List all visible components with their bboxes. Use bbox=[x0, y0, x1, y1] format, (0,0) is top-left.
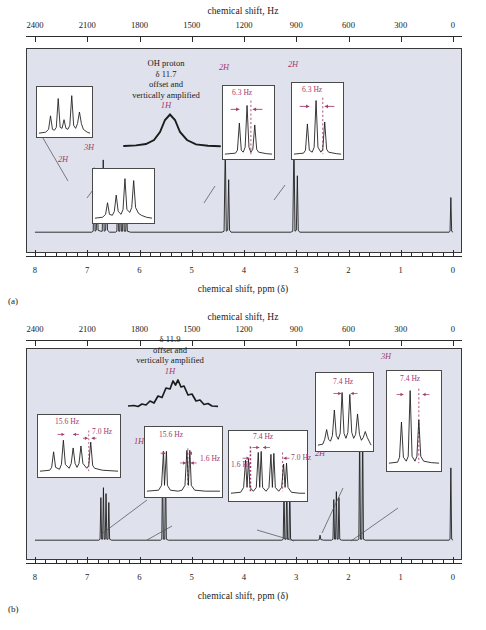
hz-tick bbox=[244, 340, 245, 346]
ppm-tick bbox=[286, 253, 287, 256]
ppm-tick bbox=[192, 557, 193, 563]
hz-tick-label: 2400 bbox=[26, 20, 43, 30]
ppm-tick bbox=[77, 560, 78, 563]
hz-tick-label: 900 bbox=[290, 324, 303, 334]
hz-tick bbox=[349, 36, 350, 42]
inset-multiplet-32ppm-b: 7.4 Hz 1.6 Hz 7.0 Hz bbox=[228, 430, 308, 502]
ppm-tick-label: 3 bbox=[294, 265, 298, 275]
ppm-tick bbox=[98, 560, 99, 563]
ppm-tick bbox=[244, 557, 245, 563]
j-label: 15.6 Hz bbox=[55, 418, 79, 426]
ppm-tick bbox=[202, 560, 203, 563]
ppm-tick bbox=[401, 557, 402, 563]
j-label: 6.3 Hz bbox=[302, 86, 322, 94]
j-label-text: 7.0 Hz bbox=[291, 453, 311, 462]
hz-tick-label: 600 bbox=[342, 324, 355, 334]
ppm-tick-label: 1 bbox=[399, 265, 403, 275]
hz-tick-label: 300 bbox=[394, 20, 407, 30]
ppm-tick bbox=[140, 250, 141, 256]
ppm-tick bbox=[380, 253, 381, 256]
ppm-tick bbox=[234, 253, 235, 256]
ppm-tick bbox=[317, 253, 318, 256]
inset-triplet-09ppm-b: 7.4 Hz bbox=[386, 370, 442, 472]
ppm-tick bbox=[56, 253, 57, 256]
inset-sextet-15ppm-b: 7.4 Hz bbox=[315, 372, 374, 452]
ppm-tick bbox=[129, 560, 130, 563]
ppm-tick bbox=[443, 560, 444, 563]
ppm-tick bbox=[171, 560, 172, 563]
hz-tick bbox=[453, 36, 454, 42]
hz-tick bbox=[87, 340, 88, 346]
ppm-tick-label: 8 bbox=[33, 572, 37, 582]
hz-tick-label: 900 bbox=[290, 20, 303, 30]
ppm-tick bbox=[422, 253, 423, 256]
ppm-tick bbox=[359, 253, 360, 256]
hz-tick-label: 2100 bbox=[79, 324, 96, 334]
ppm-tick bbox=[213, 560, 214, 563]
j-label: 7.0 Hz bbox=[291, 454, 311, 462]
inset-trace bbox=[93, 169, 154, 223]
hz-axis-b: 240021001800150012009006003000 bbox=[26, 324, 462, 350]
ppm-tick bbox=[77, 253, 78, 256]
panel-letter-a: (a) bbox=[8, 296, 18, 306]
hz-tick bbox=[192, 36, 193, 42]
ppm-axis-b: 876543210 bbox=[26, 563, 462, 589]
j-label: 1.6 Hz bbox=[200, 455, 220, 463]
hz-tick-label: 2100 bbox=[79, 20, 96, 30]
inset-triplet-4ppm-a: 6.3 Hz bbox=[222, 85, 275, 160]
ppm-tick bbox=[181, 253, 182, 256]
ppm-tick bbox=[45, 560, 46, 563]
ppm-tick bbox=[160, 560, 161, 563]
hz-tick-label: 0 bbox=[451, 324, 455, 334]
ppm-tick-label: 4 bbox=[242, 265, 246, 275]
ppm-tick bbox=[307, 560, 308, 563]
hz-tick bbox=[453, 340, 454, 346]
ppm-tick bbox=[411, 253, 412, 256]
ppm-tick-label: 3 bbox=[294, 572, 298, 582]
ppm-tick bbox=[275, 560, 276, 563]
ppm-tick bbox=[422, 560, 423, 563]
ppm-tick bbox=[275, 253, 276, 256]
ppm-tick bbox=[150, 560, 151, 563]
ppm-tick bbox=[181, 560, 182, 563]
ppm-tick bbox=[401, 250, 402, 256]
top-axis-title-a: chemical shift, Hz bbox=[0, 6, 486, 16]
hz-tick bbox=[140, 36, 141, 42]
j-label-text: 1.6 Hz bbox=[200, 454, 220, 463]
ppm-tick bbox=[234, 560, 235, 563]
j-label: 15.6 Hz bbox=[159, 431, 183, 439]
j-label: 7.0 Hz bbox=[92, 428, 112, 436]
ppm-tick-label: 7 bbox=[85, 572, 89, 582]
hz-tick-label: 1800 bbox=[131, 324, 148, 334]
ppm-tick bbox=[171, 253, 172, 256]
ppm-tick bbox=[443, 253, 444, 256]
ppm-tick bbox=[98, 253, 99, 256]
ppm-tick bbox=[296, 250, 297, 256]
bottom-axis-title-a: chemical shift, ppm (δ) bbox=[0, 284, 486, 294]
ppm-tick bbox=[411, 560, 412, 563]
ppm-tick bbox=[223, 560, 224, 563]
ppm-tick bbox=[119, 253, 120, 256]
j-label: 7.4 Hz bbox=[253, 433, 273, 441]
hz-tick-label: 1500 bbox=[183, 324, 200, 334]
ppm-tick bbox=[369, 253, 370, 256]
hz-tick-label: 600 bbox=[342, 20, 355, 30]
ppm-tick bbox=[66, 253, 67, 256]
j-label: 7.4 Hz bbox=[400, 375, 420, 383]
ppm-tick bbox=[108, 560, 109, 563]
ppm-tick bbox=[87, 250, 88, 256]
panel-letter-b: (b) bbox=[8, 604, 19, 614]
hz-tick bbox=[35, 36, 36, 42]
ppm-tick bbox=[87, 557, 88, 563]
ppm-tick bbox=[328, 560, 329, 563]
ppm-tick bbox=[45, 253, 46, 256]
j-label: 1.6 Hz bbox=[231, 461, 251, 469]
ppm-tick bbox=[328, 253, 329, 256]
ppm-tick bbox=[129, 253, 130, 256]
bottom-axis-title-b: chemical shift, ppm (δ) bbox=[0, 591, 486, 601]
ppm-tick-label: 2 bbox=[346, 572, 350, 582]
ppm-tick bbox=[150, 253, 151, 256]
j-label-text: 1.6 Hz bbox=[231, 460, 251, 469]
top-axis-title-b: chemical shift, Hz bbox=[0, 312, 486, 322]
ppm-tick bbox=[338, 560, 339, 563]
